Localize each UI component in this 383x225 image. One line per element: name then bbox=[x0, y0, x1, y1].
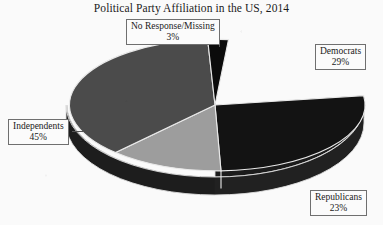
slice-label-no-response-percent: 3% bbox=[131, 32, 215, 43]
slice-label-no-response-text: No Response/Missing bbox=[131, 21, 215, 31]
slice-label-republicans: Republicans 23% bbox=[310, 190, 367, 216]
slice-label-independents: Independents 45% bbox=[8, 119, 69, 145]
slice-label-democrats-text: Democrats bbox=[320, 46, 361, 56]
leader-line-independents bbox=[72, 131, 84, 132]
slice-label-republicans-text: Republicans bbox=[315, 192, 362, 202]
slice-label-republicans-percent: 23% bbox=[315, 203, 362, 214]
slice-label-independents-text: Independents bbox=[13, 121, 64, 131]
slice-label-democrats-percent: 29% bbox=[320, 57, 361, 68]
slice-label-no-response: No Response/Missing 3% bbox=[126, 19, 220, 45]
slice-label-independents-percent: 45% bbox=[13, 132, 64, 143]
slice-label-democrats: Democrats 29% bbox=[315, 44, 366, 70]
